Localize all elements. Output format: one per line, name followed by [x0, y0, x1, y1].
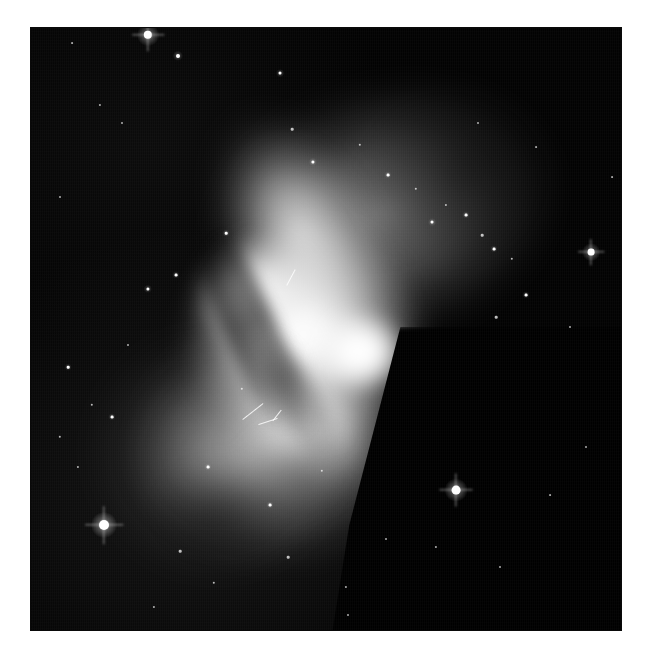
figure-page	[0, 0, 648, 660]
image-grain-noise	[30, 27, 622, 631]
astronomical-image-panel	[30, 27, 622, 631]
